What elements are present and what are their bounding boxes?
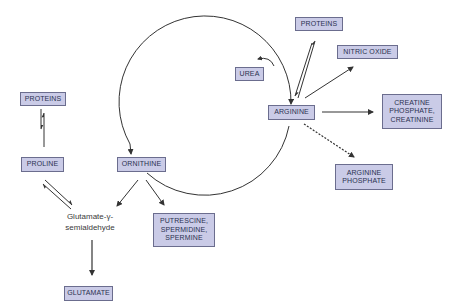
polyamines-box: PUTRESCINE, SPERMIDINE, SPERMINE	[153, 213, 215, 247]
proline-box: PROLINE	[21, 157, 64, 172]
proteins-left-box: PROTEINS	[20, 92, 66, 106]
glutamate-label: GLUTAMATE	[67, 289, 110, 298]
cycle-arc-to-arginine	[119, 16, 291, 144]
glutamate-semialdehyde-label: Glutamate-γ- semialdehyde	[60, 211, 120, 233]
arginine-metabolism-diagram: PROTEINS PROLINE Glutamate-γ- semialdehy…	[0, 0, 459, 308]
arginine-phosphate-line2: PHOSPHATE	[342, 177, 386, 186]
creatine-line1: CREATINE	[394, 99, 430, 108]
cycle-arc-to-ornithine	[147, 126, 289, 195]
urea-arrow	[258, 58, 274, 66]
arginine-phosphate-line1: ARGININE	[347, 169, 382, 178]
urea-label: UREA	[240, 70, 260, 79]
ornithine-label: ORNITHINE	[122, 160, 161, 169]
arginine-label: ARGININE	[274, 108, 309, 117]
proteins-left-label: PROTEINS	[25, 95, 62, 104]
polyamines-line3: SPERMINE	[165, 234, 202, 243]
proteins-top-label: PROTEINS	[301, 20, 338, 29]
nitric-oxide-box: NITRIC OXIDE	[337, 45, 398, 59]
proline-label: PROLINE	[27, 160, 58, 169]
ornithine-box: ORNITHINE	[117, 157, 166, 172]
glutamate-semialdehyde-line1: Glutamate-γ-	[60, 211, 120, 222]
polyamines-line2: SPERMIDINE,	[161, 226, 208, 235]
arginine-phosphate-box: ARGININE PHOSPHATE	[335, 164, 393, 190]
urea-box: UREA	[235, 67, 264, 81]
glutamate-box: GLUTAMATE	[64, 286, 113, 301]
nitric-oxide-label: NITRIC OXIDE	[343, 48, 391, 57]
glutamate-semialdehyde-line2: semialdehyde	[60, 222, 120, 233]
creatine-line3: CREATININE	[391, 116, 434, 125]
arginine-box: ARGININE	[268, 105, 315, 120]
creatine-box: CREATINE PHOSPHATE, CREATININE	[382, 94, 442, 129]
creatine-line2: PHOSPHATE,	[389, 107, 435, 116]
proteins-top-box: PROTEINS	[295, 17, 343, 31]
polyamines-line1: PUTRESCINE,	[160, 217, 208, 226]
